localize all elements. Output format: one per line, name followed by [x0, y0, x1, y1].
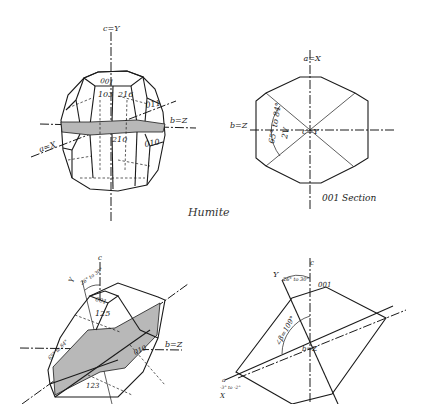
section-bottom-right: c Y 26° to 30° 001 ∠β=109° b=Z a -3° to … [219, 258, 406, 404]
crystal-bottom-left: c Y 26° to 30° b=Z 001 125 010 123 65° t… [20, 254, 188, 404]
face-label-001: 001 [95, 295, 108, 305]
face-label-010: 010 [144, 137, 161, 149]
a-angle-label: -3° to -2° [220, 385, 241, 390]
humite-diagram: .ln { stroke:#1a1a1a; stroke-width:1.1; … [0, 0, 424, 404]
crystal-top-left: c=Y b=Z a=X 001 103 216 011 210 010 [31, 24, 196, 222]
label-b-z: b=Z [170, 116, 188, 125]
section-top-right: a=X b=Z c=Y 65° to 84° 2V [230, 50, 394, 210]
label-a: a [222, 376, 226, 383]
face-label-001: 001 [318, 281, 331, 289]
label-y: Y [273, 270, 279, 279]
label-c: c [98, 254, 102, 262]
section-caption: 001 Section [322, 193, 376, 203]
label-b-z: b=Z [165, 340, 183, 349]
label-x: X [219, 392, 226, 400]
label-c: c [310, 259, 314, 267]
label-b-z: b=Z [230, 121, 248, 130]
y-c-angle-arc [85, 285, 100, 290]
equatorial-plane [61, 120, 165, 135]
face-label-001: 001 [100, 77, 114, 87]
label-b-z: b=Z [302, 345, 317, 353]
figure-title: Humite [188, 206, 230, 219]
face-label-210: 210 [111, 135, 127, 144]
face-label-011: 011 [145, 98, 162, 110]
face-label-125: 125 [95, 309, 110, 318]
face-label-123: 123 [86, 382, 100, 390]
label-a-x: a=X [38, 140, 57, 154]
label-c-y: c=Y [302, 127, 319, 136]
2v-label: 2V [280, 126, 291, 140]
y-c-angle-label: 26° to 30° [282, 276, 309, 282]
label-c-y: c=Y [103, 24, 120, 33]
beta-label: ∠β=109° [274, 315, 297, 347]
label-y: Y [67, 275, 77, 283]
label-a-x: a=X [303, 54, 320, 63]
face-label-216: 216 [117, 90, 133, 99]
face-label-103: 103 [98, 90, 113, 99]
